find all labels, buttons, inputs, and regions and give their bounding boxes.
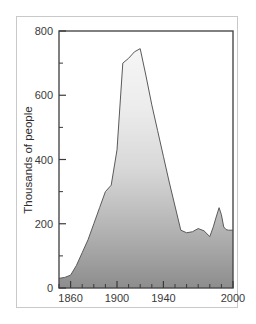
y-axis-tick-labels: 0200400600800 [35,25,53,294]
y-axis-tick-label: 800 [35,25,53,37]
x-axis-tick-label: 1860 [58,292,82,304]
y-axis-tick-label: 600 [35,89,53,101]
x-axis-tick-label: 1900 [105,292,129,304]
chart-figure: 1860190019402000 0200400600800 Thousands… [0,0,256,324]
y-axis-tick-label: 200 [35,218,53,230]
y-axis-tick-label: 0 [47,282,53,294]
area-chart: 1860190019402000 0200400600800 Thousands… [0,0,256,324]
x-axis-tick-labels: 1860190019402000 [58,292,245,304]
y-axis-title: Thousands of people [22,106,34,213]
y-axis-tick-label: 400 [35,154,53,166]
x-axis-tick-label: 2000 [221,292,245,304]
x-axis-tick-label: 1940 [151,292,175,304]
